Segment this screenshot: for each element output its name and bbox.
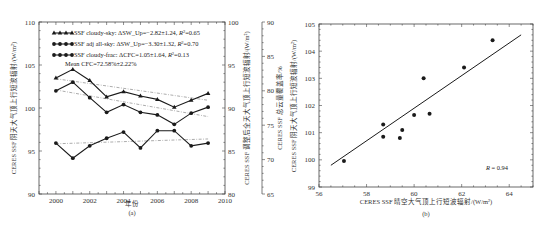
triangle-marker	[87, 78, 92, 82]
triangle-marker	[206, 91, 211, 95]
circle-marker	[71, 80, 75, 84]
circle-marker	[122, 103, 126, 107]
legend-item-3: SSF cloudy-frac: ΔCFC=1.05±1.64, R2=0.13	[52, 51, 189, 59]
right-y2-tick-label: 75	[267, 122, 275, 130]
panel-a-series	[54, 67, 211, 160]
circle-marker	[139, 146, 143, 150]
x-tick-label: 58	[363, 190, 371, 198]
circle-marker	[206, 105, 210, 109]
panel-a-x-axis-title: 年份	[125, 199, 139, 208]
correlation-annotation: R = 0.94	[485, 164, 509, 171]
figure: 200020022004200620082010 9095100105110 8…	[0, 0, 546, 227]
scatter-point	[381, 123, 385, 127]
right-y1-tick-label: 85	[228, 148, 236, 156]
x-tick-label: 62	[458, 190, 466, 198]
legend-item-1: SSF cloudy-sky: ΔSW_Up=−2.82±1.24, R2=0.…	[52, 29, 200, 37]
right-y1-tick-label: 100	[228, 19, 239, 27]
scatter-point	[428, 112, 432, 116]
circle-marker	[105, 136, 109, 140]
circle-marker	[155, 113, 159, 117]
right-y1-tick-label: 90	[228, 105, 236, 113]
y-tick-label: 102	[305, 102, 316, 110]
left-y-tick-label: 100	[25, 105, 36, 113]
left-y-tick-label: 90	[28, 191, 36, 199]
right-y1-tick-label: 95	[228, 62, 236, 70]
scatter-point	[491, 38, 495, 42]
scatter-point	[400, 128, 404, 132]
panel-a-trend-lines	[56, 79, 208, 144]
panel-a-caption: (a)	[128, 209, 135, 217]
legend-label: SSF cloudy-sky: ΔSW_Up=−2.82±1.24, R2=0.…	[74, 29, 200, 37]
panel-a: 200020022004200620082010 9095100105110 8…	[9, 19, 284, 218]
circle-marker	[88, 96, 92, 100]
x-tick-label: 64	[506, 190, 514, 198]
circle-marker	[139, 110, 143, 114]
scatter-point	[398, 136, 402, 140]
circle-marker	[52, 42, 56, 46]
left-y-tick-label: 105	[25, 62, 36, 70]
right-y2-tick-label: 70	[267, 156, 275, 164]
scatter-point	[381, 135, 385, 139]
right-y1-tick-label: 80	[228, 191, 236, 199]
right-y2-tick-label: 85	[267, 53, 275, 61]
circle-marker	[64, 42, 68, 46]
panel-a-right-y-title-1: CERES SSF 调整后全天大气顶上行短波辐射/(W/m²)	[242, 31, 251, 184]
y-tick-label: 100	[305, 156, 316, 164]
circle-marker	[54, 141, 58, 145]
legend-label: SSF adj all-sky: ΔSW_Up=−3.30±1.32, R2=0…	[74, 40, 198, 48]
circle-marker	[122, 130, 126, 134]
panel-b: 5658606264 99100101102103104105 R = 0.94…	[289, 21, 533, 219]
x-tick-label: 60	[411, 190, 419, 198]
circle-marker	[189, 144, 193, 148]
circle-marker	[105, 110, 109, 114]
circle-marker	[58, 53, 62, 57]
mean-cfc-annotation: Mean CFC=72.58%±2.22%	[65, 60, 137, 67]
panel-a-legend: SSF cloudy-sky: ΔSW_Up=−2.82±1.24, R2=0.…	[52, 29, 200, 59]
y-tick-label: 103	[305, 75, 316, 83]
right-y2-tick-label: 90	[267, 19, 275, 27]
scatter-point	[462, 65, 466, 69]
series-line-1	[54, 67, 211, 109]
left-y-tick-label: 110	[25, 19, 36, 27]
panel-a-right-y-title-2: CERES SSF 总云量覆盖率/%	[275, 66, 284, 150]
y-tick-label: 99	[308, 184, 316, 192]
trend-line	[56, 79, 208, 101]
y-tick-label: 101	[305, 129, 316, 137]
x-tick-label: 2008	[184, 197, 199, 205]
panel-a-left-y-title: CERES SSF 阴天大气顶上行短波辐射/(W/m²)	[9, 42, 18, 174]
panel-b-scatter-points	[342, 38, 495, 163]
panel-a-x-axis: 200020022004200620082010	[39, 22, 233, 205]
panel-b-regression-line	[331, 35, 521, 165]
circle-marker	[54, 89, 58, 93]
scatter-point	[412, 113, 416, 117]
panel-b-caption: (b)	[422, 210, 430, 218]
circle-marker	[206, 141, 210, 145]
series-line-3	[54, 129, 210, 160]
circle-marker	[155, 129, 159, 133]
x-tick-label: 56	[316, 190, 324, 198]
right-y2-tick-label: 80	[267, 87, 275, 95]
panel-b-y-axis-title: CERES SSF 阴天大气顶上行短波辐射/(W/m²)	[289, 40, 298, 172]
circle-marker	[64, 53, 68, 57]
panel-b-x-axis: 5658606264	[316, 24, 534, 198]
triangle-marker	[121, 89, 126, 93]
scatter-point	[342, 159, 346, 163]
circle-marker	[71, 156, 75, 160]
circle-marker	[52, 53, 56, 57]
x-tick-label: 2000	[49, 197, 64, 205]
right-y2-tick-label: 65	[267, 191, 275, 199]
circle-marker	[189, 111, 193, 115]
y-tick-label: 104	[305, 48, 316, 56]
legend-label: SSF cloudy-frac: ΔCFC=1.05±1.64, R2=0.13	[74, 51, 189, 59]
x-tick-label: 2002	[83, 197, 98, 205]
panel-a-right-y-axis-2: 657075808590	[262, 19, 275, 199]
panel-a-right-y-axis-1: 80859095100	[222, 19, 239, 199]
left-y-tick-label: 95	[28, 148, 36, 156]
scatter-point	[422, 76, 426, 80]
legend-item-2: SSF adj all-sky: ΔSW_Up=−3.30±1.32, R2=0…	[52, 40, 198, 48]
circle-marker	[88, 144, 92, 148]
circle-marker	[172, 129, 176, 133]
circle-marker	[172, 122, 176, 126]
x-tick-label: 2006	[150, 197, 165, 205]
y-tick-label: 105	[305, 21, 316, 29]
